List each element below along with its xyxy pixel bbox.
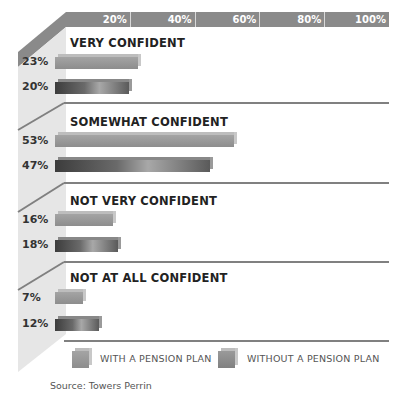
category-title: SOMEWHAT CONFIDENT — [70, 115, 228, 129]
value-label: 16% — [22, 213, 52, 226]
group-divider — [64, 261, 389, 263]
category-title: NOT AT ALL CONFIDENT — [70, 271, 228, 285]
value-label: 23% — [22, 55, 52, 68]
x-axis-band: 20% 40% 60% 80% 100% — [66, 12, 389, 27]
axis-tick: 60% — [196, 12, 261, 27]
group-divider — [64, 102, 389, 104]
value-label: 20% — [22, 80, 52, 93]
bar-with-pension — [55, 132, 237, 147]
value-label: 7% — [22, 291, 52, 304]
group-divider — [64, 182, 389, 184]
value-label: 12% — [22, 317, 52, 330]
bar-without-pension — [55, 316, 102, 331]
value-label: 53% — [22, 134, 52, 147]
source-note: Source: Towers Perrin — [50, 380, 152, 391]
value-label: 47% — [22, 159, 52, 172]
group-divider — [64, 340, 389, 342]
bar-with-pension — [55, 54, 141, 69]
axis-tick: 80% — [260, 12, 325, 27]
bar-without-pension — [55, 237, 121, 252]
category-title: NOT VERY CONFIDENT — [70, 194, 217, 208]
bar-without-pension — [55, 79, 132, 94]
bar-with-pension — [55, 211, 116, 226]
legend-swatch-with-pension-icon — [72, 348, 92, 368]
bar-without-pension — [55, 157, 213, 172]
bar-with-pension — [55, 289, 86, 304]
axis-tick: 40% — [131, 12, 196, 27]
axis-tick: 20% — [66, 12, 131, 27]
legend-label-without: WITHOUT A PENSION PLAN — [247, 353, 379, 364]
value-label: 18% — [22, 238, 52, 251]
axis-tick: 100% — [325, 12, 389, 27]
legend-swatch-without-pension-icon — [218, 348, 238, 368]
legend-label-with: WITH A PENSION PLAN — [100, 353, 212, 364]
category-title: VERY CONFIDENT — [70, 36, 185, 50]
